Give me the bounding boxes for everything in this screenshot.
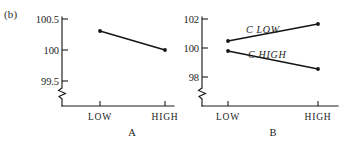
x-category-label-a-low: LOW	[88, 112, 112, 122]
series-b-c-high-point-high	[316, 67, 320, 71]
panel-tag: (b)	[4, 8, 17, 20]
y-tick-label-a-1: 100	[44, 45, 59, 56]
series-b-c-low-point-high	[316, 22, 320, 26]
y-axis-break-a	[59, 88, 66, 99]
y-axis-break-b	[199, 88, 206, 99]
series-label-c-high: C HIGH	[248, 49, 286, 60]
y-tick-label-b-2: 98	[189, 72, 199, 83]
series-b-c-low: C LOW	[226, 22, 320, 43]
series-a-main-line	[100, 31, 165, 50]
figure-root: (b) 100.5 100 99.5 LOW HIGH A	[0, 0, 344, 141]
chart-panel-a: 100.5 100 99.5 LOW HIGH A	[30, 0, 178, 141]
chart-panel-b: 102 100 98 LOW HIGH B C LOW C HIGH	[180, 0, 344, 141]
x-category-label-b-high: HIGH	[305, 112, 332, 122]
series-b-c-high-point-low	[226, 49, 230, 53]
series-b-c-low-point-low	[226, 39, 230, 43]
x-axis-title-b: B	[269, 127, 276, 138]
x-category-label-b-low: LOW	[216, 112, 240, 122]
x-category-label-a-high: HIGH	[152, 112, 178, 122]
series-a-main-point-high	[163, 48, 167, 52]
series-a-main	[98, 29, 167, 52]
y-tick-label-a-0: 100.5	[36, 14, 59, 25]
x-axis-title-a: A	[128, 127, 136, 138]
series-b-c-high: C HIGH	[226, 49, 320, 71]
y-tick-label-b-0: 102	[184, 14, 199, 25]
series-a-main-point-low	[98, 29, 102, 33]
y-tick-label-a-2: 99.5	[41, 76, 59, 87]
y-tick-label-b-1: 100	[184, 43, 199, 54]
series-label-c-low: C LOW	[246, 24, 281, 35]
